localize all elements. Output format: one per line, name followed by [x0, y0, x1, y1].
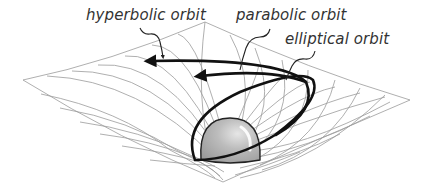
elliptical-orbit-label: elliptical orbit: [285, 30, 389, 48]
hyperbolic-leader: [140, 28, 163, 57]
hyperbolic-orbit-label: hyperbolic orbit: [86, 6, 206, 24]
diagram-canvas: [0, 0, 431, 190]
orbit-diagram: hyperbolic orbit parabolic orbit ellipti…: [0, 0, 431, 190]
parabolic-orbit-label: parabolic orbit: [236, 6, 347, 24]
